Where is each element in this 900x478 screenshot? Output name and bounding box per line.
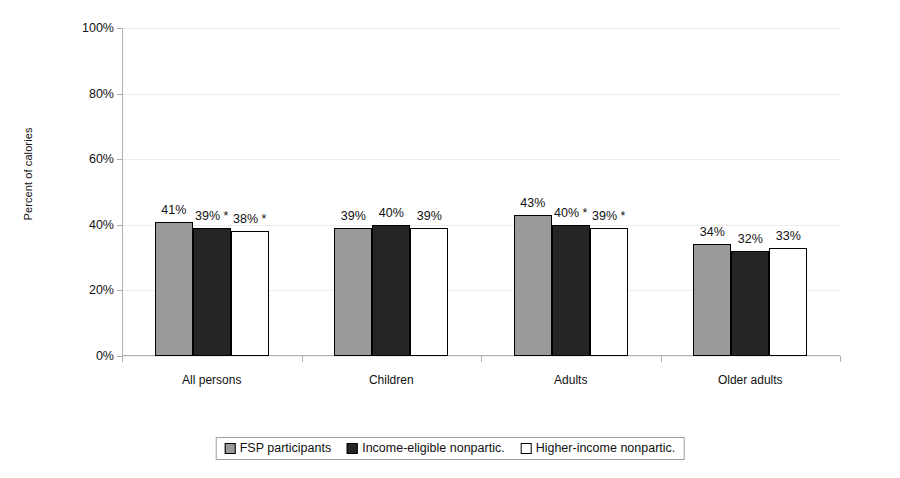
bar[interactable] — [731, 251, 769, 356]
bar-column: 33% — [769, 28, 807, 356]
x-axis-tick-mark — [840, 356, 841, 362]
bar-value-label: 39% * — [195, 209, 228, 223]
legend-item[interactable]: FSP participants — [225, 441, 331, 455]
x-axis-category-label: Children — [302, 373, 482, 387]
x-axis-category-label: All persons — [122, 373, 302, 387]
bar-value-label: 43% — [520, 196, 545, 210]
bar-value-label: 32% — [738, 232, 763, 246]
bar-group: 34%32%33%Older adults — [661, 28, 841, 356]
y-axis-tick-label: 80% — [89, 87, 114, 101]
bar[interactable] — [410, 228, 448, 356]
bar[interactable] — [693, 244, 731, 356]
plot-area: 0%20%40%60%80%100%41%39% *38% *All perso… — [122, 28, 840, 356]
bar-column: 39% * — [193, 28, 231, 356]
legend-item[interactable]: Higher-income nonpartic. — [521, 441, 676, 455]
y-axis-title: Percent of calories — [22, 84, 34, 264]
bar-group-bars: 34%32%33% — [661, 28, 841, 356]
bar-value-label: 40% — [379, 206, 404, 220]
bar[interactable] — [590, 228, 628, 356]
x-axis-tick-mark — [122, 356, 123, 362]
bar-column: 38% * — [231, 28, 269, 356]
bar-column: 39% — [410, 28, 448, 356]
bar-group-bars: 41%39% *38% * — [122, 28, 302, 356]
chart-legend: FSP participantsIncome-eligible nonparti… — [216, 437, 685, 460]
bar[interactable] — [231, 231, 269, 356]
legend-item-label: Income-eligible nonpartic. — [362, 441, 504, 455]
bar-group: 43%40% *39% *Adults — [481, 28, 661, 356]
bar-column: 39% * — [590, 28, 628, 356]
bar[interactable] — [334, 228, 372, 356]
bar-column: 40% * — [552, 28, 590, 356]
legend-item-label: Higher-income nonpartic. — [536, 441, 676, 455]
legend-swatch-icon — [347, 443, 358, 454]
bar-value-label: 33% — [776, 229, 801, 243]
bar-column: 32% — [731, 28, 769, 356]
bar[interactable] — [155, 222, 193, 356]
bar-group-bars: 39%40%39% — [302, 28, 482, 356]
bar-value-label: 40% * — [554, 206, 587, 220]
bar-column: 41% — [155, 28, 193, 356]
bar[interactable] — [769, 248, 807, 356]
y-axis-tick-label: 100% — [82, 21, 114, 35]
x-axis-category-label: Adults — [481, 373, 661, 387]
bar-value-label: 34% — [700, 225, 725, 239]
bar[interactable] — [552, 225, 590, 356]
bar[interactable] — [372, 225, 410, 356]
bar-column: 43% — [514, 28, 552, 356]
y-axis-tick-label: 40% — [89, 218, 114, 232]
bar-value-label: 38% * — [233, 212, 266, 226]
bar[interactable] — [193, 228, 231, 356]
x-axis-category-label: Older adults — [661, 373, 841, 387]
bar-value-label: 39% — [417, 209, 442, 223]
bar-column: 40% — [372, 28, 410, 356]
legend-item[interactable]: Income-eligible nonpartic. — [347, 441, 504, 455]
legend-item-label: FSP participants — [240, 441, 331, 455]
bar-column: 39% — [334, 28, 372, 356]
bar-value-label: 41% — [161, 203, 186, 217]
legend-swatch-icon — [225, 443, 236, 454]
x-axis-tick-mark — [302, 356, 303, 362]
bar-group-bars: 43%40% *39% * — [481, 28, 661, 356]
y-axis-tick-label: 20% — [89, 283, 114, 297]
bar-value-label: 39% — [341, 209, 366, 223]
x-axis-tick-mark — [661, 356, 662, 362]
y-axis-tick-label: 0% — [96, 349, 114, 363]
x-axis-tick-mark — [481, 356, 482, 362]
bar-group: 39%40%39%Children — [302, 28, 482, 356]
y-axis-tick-label: 60% — [89, 152, 114, 166]
bar[interactable] — [514, 215, 552, 356]
bar-group: 41%39% *38% *All persons — [122, 28, 302, 356]
bar-column: 34% — [693, 28, 731, 356]
legend-swatch-icon — [521, 443, 532, 454]
bar-value-label: 39% * — [592, 209, 625, 223]
bar-chart: Percent of calories 0%20%40%60%80%100%41… — [0, 0, 900, 478]
